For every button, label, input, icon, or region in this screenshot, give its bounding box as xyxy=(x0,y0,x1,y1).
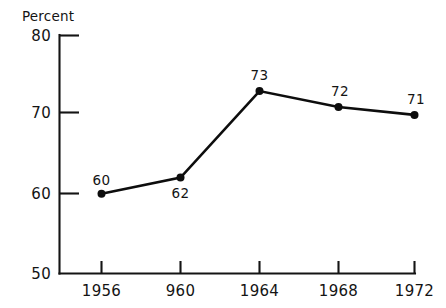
y-axis-title: Percent xyxy=(22,8,74,24)
x-tick-label-1972: 1972 xyxy=(395,282,434,300)
x-tick-label-960: 960 xyxy=(166,282,196,300)
line-chart: Percent 80 70 60 50 1956 960 1964 1968 1… xyxy=(0,0,446,308)
y-tick-label-80: 80 xyxy=(31,27,51,45)
data-point-1956 xyxy=(98,190,106,198)
data-label-960: 62 xyxy=(172,185,190,201)
x-tick-label-1968: 1968 xyxy=(319,282,358,300)
data-point-1968 xyxy=(335,103,343,111)
x-tick-label-1964: 1964 xyxy=(240,282,279,300)
chart-background xyxy=(0,0,446,308)
data-point-1964 xyxy=(256,87,264,95)
data-point-960 xyxy=(177,174,185,182)
data-label-1972: 71 xyxy=(407,91,425,107)
y-tick-label-60: 60 xyxy=(31,185,51,203)
y-tick-label-70: 70 xyxy=(31,104,51,122)
data-label-1968: 72 xyxy=(331,83,349,99)
data-label-1964: 73 xyxy=(251,67,269,83)
chart-figure: Percent 80 70 60 50 1956 960 1964 1968 1… xyxy=(0,0,446,308)
data-label-1956: 60 xyxy=(93,172,111,188)
y-tick-label-50: 50 xyxy=(31,265,51,283)
x-tick-label-1956: 1956 xyxy=(82,282,121,300)
data-point-1972 xyxy=(411,111,419,119)
